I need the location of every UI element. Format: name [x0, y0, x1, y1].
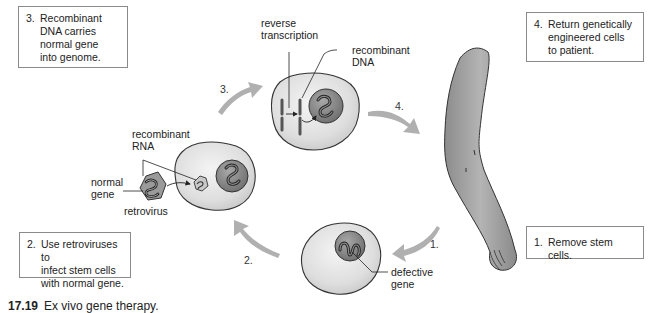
step-4-box: 4. Return genetically engineered cells t…: [526, 12, 644, 62]
step-3-number: 3.: [26, 12, 35, 25]
patient-arm-illustration: [445, 48, 517, 270]
defective-stem-cell: [302, 223, 388, 294]
label-defective-gene: defective gene: [391, 266, 433, 290]
step-3-box: 3. Recombinant DNA carries normal gene i…: [18, 6, 128, 68]
engineered-cell: [272, 50, 360, 150]
arrow-label-3: 3.: [220, 83, 229, 95]
step-4-number: 4.: [534, 18, 543, 31]
step-3-text: Recombinant DNA carries normal gene into…: [40, 12, 121, 64]
arrow-2: [234, 220, 280, 258]
label-retrovirus: retrovirus: [124, 205, 168, 217]
step-4-text: Return genetically engineered cells to p…: [548, 18, 637, 57]
label-reverse-transcription: reverse transcription: [261, 17, 318, 41]
step-2-box: 2. Use retroviruses to infect stem cells…: [19, 232, 131, 278]
figure-caption-text: Ex vivo gene therapy.: [44, 299, 159, 313]
figure-caption: 17.19Ex vivo gene therapy.: [8, 299, 159, 313]
step-2-number: 2.: [27, 238, 36, 251]
label-normal-gene: normal gene: [91, 176, 123, 200]
arrow-label-1: 1.: [430, 238, 439, 250]
step-1-box: 1. Remove stem cells.: [526, 226, 644, 259]
step-1-number: 1.: [534, 236, 543, 249]
arrow-label-4: 4.: [395, 100, 404, 112]
arrow-label-2: 2.: [244, 254, 253, 266]
figure-number: 17.19: [8, 299, 38, 313]
label-recombinant-rna: recombinant RNA: [132, 128, 190, 152]
step-1-text: Remove stem cells.: [548, 236, 637, 262]
arrow-4: [368, 111, 420, 134]
label-recombinant-dna: recombinant DNA: [352, 44, 410, 68]
step-2-text: Use retroviruses to infect stem cells wi…: [41, 238, 124, 290]
